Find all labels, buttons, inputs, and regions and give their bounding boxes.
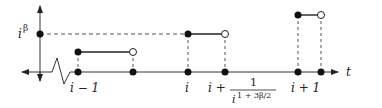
y-label: i — [18, 27, 22, 41]
frac-den-exp: 1 + 3β/2 — [237, 91, 271, 100]
level-dot — [37, 31, 44, 38]
x-axis-label: t — [346, 65, 351, 79]
axis-dot — [222, 69, 229, 76]
tick-label-i-plus-1: i + 1 — [291, 81, 320, 95]
filled-dot — [75, 49, 82, 56]
axis-dot — [318, 69, 325, 76]
open-dot — [130, 49, 137, 56]
axis-dot — [75, 69, 82, 76]
filled-dot — [295, 12, 302, 19]
axis-dot — [130, 69, 137, 76]
open-dot — [318, 12, 325, 19]
step-function-diagram: i β t i − 1 i i + 1 i 1 + 3β/2 i + 1 — [0, 0, 382, 108]
y-label-sup: β — [23, 23, 28, 33]
axis-break-zigzag — [52, 58, 70, 84]
open-dot — [222, 31, 229, 38]
frac-numerator: 1 — [250, 76, 257, 89]
tick-label-i: i — [185, 81, 189, 95]
tick-label-i-plus-prefix: i + — [208, 81, 226, 95]
axis-dot — [185, 69, 192, 76]
axis-dot — [295, 69, 302, 76]
tick-label-i-minus-1: i − 1 — [70, 81, 99, 95]
frac-den-base: i — [232, 93, 236, 106]
filled-dot — [185, 31, 192, 38]
